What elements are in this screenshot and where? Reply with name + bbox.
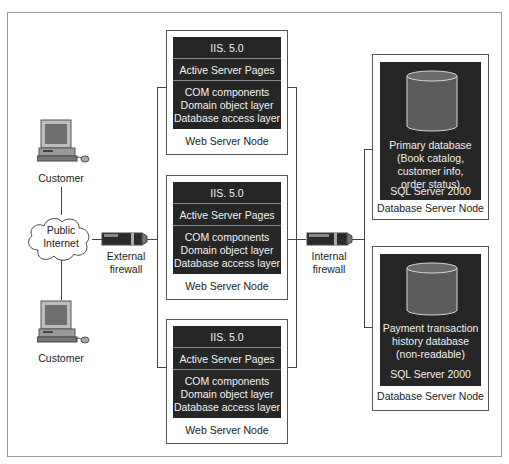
internal-firewall-line1: Internal	[301, 250, 357, 263]
bus-to-int-firewall-link	[287, 239, 306, 240]
web3-right-to-bus	[287, 367, 296, 368]
component-layers: COM components Domain object layer Datab…	[173, 81, 281, 129]
internet-label: Public Internet	[30, 224, 92, 250]
customer-label: Customer	[26, 172, 96, 185]
database-detail-line: (non-readable)	[380, 348, 481, 361]
web-server-node-caption: Web Server Node	[167, 280, 287, 292]
customer-bottom-link	[61, 260, 62, 300]
domain-object-layer-label: Domain object layer	[181, 244, 274, 257]
web-right-bus	[296, 87, 297, 368]
domain-object-layer-label: Domain object layer	[181, 388, 274, 401]
sql-server-label: SQL Server 2000	[380, 185, 481, 197]
com-components-label: COM components	[185, 231, 270, 244]
internal-firewall-icon	[306, 231, 354, 247]
customer-computer-icon	[37, 118, 97, 170]
db-bus	[364, 149, 365, 328]
customer-top-link	[61, 187, 62, 215]
database-detail-line: (Book catalog,	[380, 152, 481, 165]
database-stack: Primary database (Book catalog, customer…	[380, 62, 481, 200]
db-bus-to-db1	[364, 149, 372, 150]
web-server-stack: IIS. 5.0 Active Server Pages COM compone…	[173, 37, 281, 129]
internet-label-line2: Internet	[30, 237, 92, 250]
database-access-layer-label: Database access layer	[174, 257, 280, 270]
database-access-layer-label: Database access layer	[174, 401, 280, 414]
customer-label: Customer	[26, 352, 96, 365]
web-server-stack: IIS. 5.0 Active Server Pages COM compone…	[173, 326, 281, 418]
database-name: Primary database	[380, 139, 481, 152]
web-server-node: IIS. 5.0 Active Server Pages COM compone…	[166, 175, 288, 300]
iis-layer: IIS. 5.0	[173, 182, 281, 204]
domain-object-layer-label: Domain object layer	[181, 99, 274, 112]
database-name: Payment transaction	[380, 322, 481, 335]
database-description: Primary database (Book catalog, customer…	[380, 139, 481, 191]
db-bus-to-db2	[364, 327, 372, 328]
web-left-bus	[157, 87, 158, 368]
external-firewall-line1: External	[98, 250, 154, 263]
web-server-node-caption: Web Server Node	[167, 135, 287, 147]
asp-layer: Active Server Pages	[173, 59, 281, 81]
iis-layer: IIS. 5.0	[173, 326, 281, 348]
database-stack: Payment transaction history database (no…	[380, 254, 481, 386]
asp-layer: Active Server Pages	[173, 348, 281, 370]
database-server-node: Payment transaction history database (no…	[372, 246, 489, 411]
external-firewall-line2: firewall	[98, 263, 154, 276]
database-detail-line: history database	[380, 335, 481, 348]
database-access-layer-label: Database access layer	[174, 112, 280, 125]
web-server-node: IIS. 5.0 Active Server Pages COM compone…	[166, 319, 288, 444]
component-layers: COM components Domain object layer Datab…	[173, 226, 281, 274]
web-server-node: IIS. 5.0 Active Server Pages COM compone…	[166, 30, 288, 155]
web-server-node-caption: Web Server Node	[167, 424, 287, 436]
external-firewall-icon	[101, 231, 149, 247]
internal-firewall-label: Internal firewall	[301, 250, 357, 276]
web1-right-to-bus	[287, 87, 296, 88]
bus-to-web3-left	[157, 367, 166, 368]
com-components-label: COM components	[185, 86, 270, 99]
com-components-label: COM components	[185, 375, 270, 388]
database-cylinder-icon	[405, 262, 459, 318]
database-detail-line: customer info,	[380, 165, 481, 178]
database-cylinder-icon	[405, 70, 459, 134]
database-server-node-caption: Database Server Node	[373, 202, 488, 214]
web-server-stack: IIS. 5.0 Active Server Pages COM compone…	[173, 182, 281, 274]
asp-layer: Active Server Pages	[173, 204, 281, 226]
customer-computer-icon	[37, 299, 97, 351]
component-layers: COM components Domain object layer Datab…	[173, 370, 281, 418]
internal-firewall-line2: firewall	[301, 263, 357, 276]
database-server-node: Primary database (Book catalog, customer…	[372, 54, 489, 220]
iis-layer: IIS. 5.0	[173, 37, 281, 59]
database-description: Payment transaction history database (no…	[380, 322, 481, 361]
internet-label-line1: Public	[30, 224, 92, 237]
external-firewall-label: External firewall	[98, 250, 154, 276]
database-server-node-caption: Database Server Node	[373, 390, 488, 402]
sql-server-label: SQL Server 2000	[380, 368, 481, 380]
bus-to-web1-left	[157, 87, 166, 88]
